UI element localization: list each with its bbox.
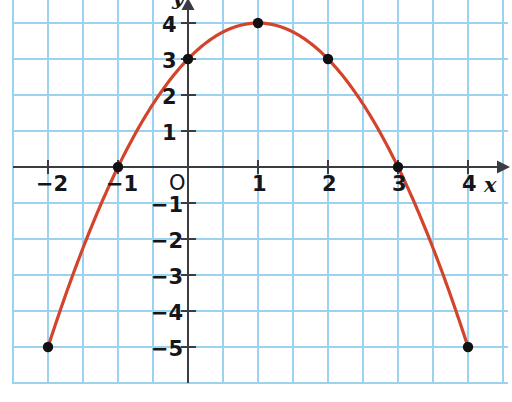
data-point-marker: [183, 54, 193, 64]
graph-figure: −2 −1 1 2 3 4 4 3 2 1 −1 −2 −3 −4 −5 O x…: [0, 0, 512, 402]
x-tick-label-3: 3: [392, 174, 407, 195]
data-point-marker: [393, 162, 403, 172]
y-tick-label-neg1: −1: [151, 195, 183, 216]
y-tick-label-3: 3: [162, 51, 177, 72]
y-tick-label-neg2: −2: [151, 231, 183, 252]
origin-label: O: [169, 173, 186, 194]
y-axis-label: y: [172, 0, 184, 8]
data-point-marker: [43, 342, 53, 352]
y-tick-label-1: 1: [162, 123, 177, 144]
y-tick-label-neg4: −4: [151, 303, 183, 324]
x-axis-label: x: [484, 174, 497, 195]
y-tick-label-neg3: −3: [151, 267, 183, 288]
y-tick-label-4: 4: [162, 15, 177, 36]
x-tick-label-1: 1: [252, 174, 267, 195]
data-point-marker: [463, 342, 473, 352]
y-tick-label-2: 2: [162, 87, 177, 108]
data-point-marker: [253, 18, 263, 28]
data-point-marker: [323, 54, 333, 64]
x-tick-label-2: 2: [322, 174, 337, 195]
x-tick-label-neg2: −2: [36, 174, 68, 195]
coordinate-plane: [0, 0, 512, 402]
x-tick-label-neg1: −1: [106, 174, 138, 195]
data-point-marker: [113, 162, 123, 172]
y-tick-label-neg5: −5: [151, 339, 183, 360]
x-tick-label-4: 4: [462, 174, 477, 195]
